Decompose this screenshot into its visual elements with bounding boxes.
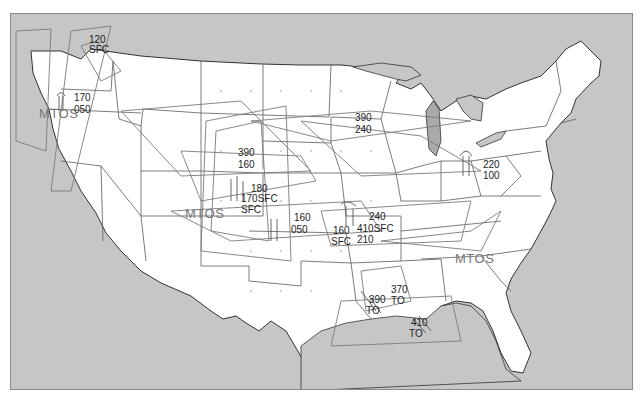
label-plains-top: 160 xyxy=(294,212,311,223)
label-ozark-bottom: 210 xyxy=(357,234,374,245)
label-gulf-top: 370 xyxy=(391,284,408,295)
label-kansas-top: 160 xyxy=(333,225,350,236)
weather-map: 120 SFC 170 050 MTOS 390 160 180 170SFC … xyxy=(10,13,633,390)
label-mtos-central: MTOS xyxy=(185,206,224,221)
label-northplains-top: 390 xyxy=(355,112,372,123)
label-ohio-top: 220 xyxy=(483,159,500,170)
label-gulf3-bottom: TO xyxy=(409,328,423,339)
label-rockies2-bottom: SFC xyxy=(241,204,261,215)
label-gulf-mid: TO xyxy=(391,295,405,306)
label-ozark-mid: 410SFC xyxy=(357,223,394,234)
label-mtos-west: MTOS xyxy=(39,106,78,121)
label-rockies2-mid: 170SFC xyxy=(241,193,278,204)
label-rockies-top: 390 xyxy=(238,147,255,158)
label-plains-bottom: 050 xyxy=(291,224,308,235)
label-nw-bottom: SFC xyxy=(89,44,109,55)
label-rockies-bottom: 160 xyxy=(238,159,255,170)
map-frame: 120 SFC 170 050 MTOS 390 160 180 170SFC … xyxy=(10,13,633,390)
label-gulf2-top: 390 xyxy=(369,294,386,305)
label-nw2-top: 170 xyxy=(74,92,91,103)
label-kansas-bottom: SFC xyxy=(331,236,351,247)
label-northplains-bottom: 240 xyxy=(355,124,372,135)
label-gulf3-top: 410 xyxy=(411,317,428,328)
label-gulf2-bottom: TO xyxy=(366,305,380,316)
label-ohio-bottom: 100 xyxy=(483,170,500,181)
label-mtos-east: MTOS xyxy=(455,251,494,266)
label-ozark-top: 240 xyxy=(369,211,386,222)
